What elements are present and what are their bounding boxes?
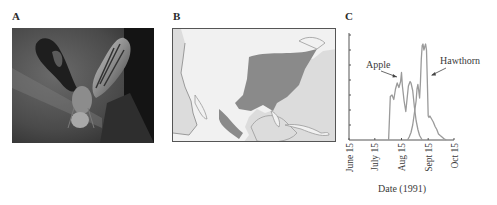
range-map-image [173, 29, 336, 142]
chart-series [389, 44, 447, 140]
x-tick-label: Aug 15 [397, 143, 407, 171]
arrowhead-icon [393, 74, 398, 78]
annotation-hawthorn-label: Hawthorn [440, 55, 480, 66]
arrowhead-icon [431, 72, 436, 76]
north-america-map [172, 28, 336, 142]
fly-photograph [12, 28, 154, 143]
panel-label-b: B [173, 10, 180, 22]
x-tick-label: June 15 [345, 143, 355, 173]
x-tick-label: Sept 15 [424, 143, 434, 172]
annotation-apple-label: Apple [366, 59, 391, 70]
fly-photo-image [12, 28, 154, 143]
chart-axes: June 15July 15Aug 15Sept 15Oct 15 [345, 33, 460, 172]
emergence-chart: June 15July 15Aug 15Sept 15Oct 15 AppleH… [340, 20, 497, 205]
series-apple-line [389, 73, 423, 141]
chart-annotations: AppleHawthorn [366, 55, 480, 78]
chart-canvas: June 15July 15Aug 15Sept 15Oct 15 AppleH… [340, 20, 497, 205]
panel-label-a: A [12, 10, 20, 22]
x-tick-label: July 15 [370, 143, 380, 171]
x-axis-label: Date (1991) [378, 183, 426, 195]
x-tick-label: Oct 15 [450, 143, 460, 169]
